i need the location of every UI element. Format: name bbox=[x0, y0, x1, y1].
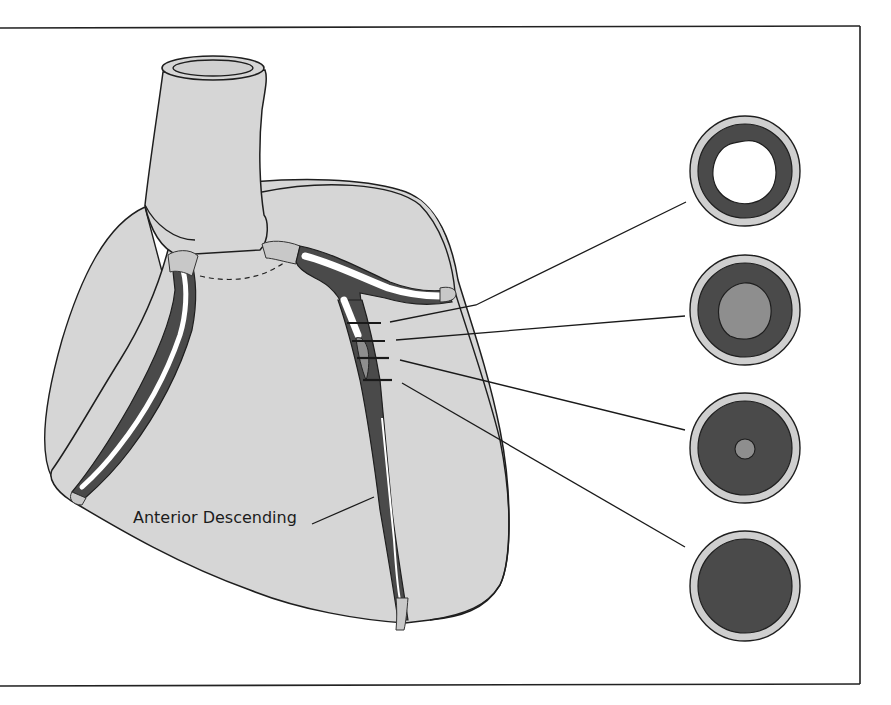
cross-section-2 bbox=[690, 255, 800, 365]
cross-section-1 bbox=[690, 116, 800, 226]
cross-section-4 bbox=[690, 531, 800, 641]
anterior-descending-label: Anterior Descending bbox=[133, 508, 297, 527]
aorta bbox=[145, 56, 267, 255]
heart-coronary-diagram: Anterior Descending bbox=[0, 0, 891, 705]
cross-section-3 bbox=[690, 393, 800, 503]
